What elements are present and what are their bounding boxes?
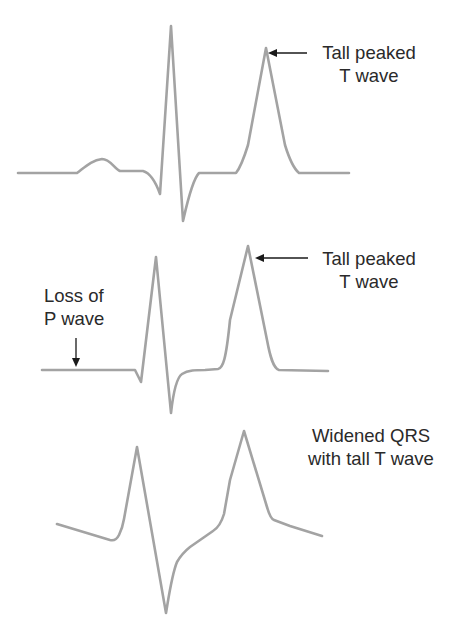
ecg-trace-widened-qrs xyxy=(57,431,322,613)
label-line: Widened QRS xyxy=(292,424,450,447)
ecg-trace-tall-peaked-t xyxy=(18,26,349,221)
label-line: Tall peaked xyxy=(308,247,430,270)
label-line: T wave xyxy=(308,64,430,87)
widened-qrs-label: Widened QRS with tall T wave xyxy=(292,424,450,470)
label-line: Tall peaked xyxy=(308,41,430,64)
p-wave-pointer-arrow xyxy=(72,338,80,367)
label-line: P wave xyxy=(44,307,122,330)
label-line: T wave xyxy=(308,270,430,293)
t-wave-pointer-arrow-2 xyxy=(255,254,308,262)
tall-peaked-t-wave-label-1: Tall peaked T wave xyxy=(308,41,430,87)
label-line: Loss of xyxy=(44,284,122,307)
tall-peaked-t-wave-label-2: Tall peaked T wave xyxy=(308,247,430,293)
t-wave-pointer-arrow-1 xyxy=(268,49,307,57)
loss-of-p-wave-label: Loss of P wave xyxy=(38,284,122,330)
label-line: with tall T wave xyxy=(292,447,450,470)
